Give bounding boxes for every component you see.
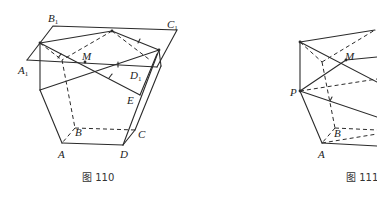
hidden-edge [322, 134, 377, 143]
label-d1: D1 [129, 69, 142, 83]
figure-110: B1 C1 A1 M D1 E A B C D 图 110 [17, 12, 178, 183]
label-a: A [317, 148, 325, 160]
caption-figure-111: 图 111 [346, 172, 377, 183]
figure-111: M P A B 图 111 [289, 30, 377, 183]
plane-edge-a1-d1 [27, 60, 157, 67]
edge [112, 31, 159, 50]
label-c: C [138, 128, 146, 140]
label-m: M [81, 50, 92, 62]
edge [40, 90, 62, 143]
caption-figure-110: 图 110 [82, 172, 114, 183]
vertex-dot [299, 41, 302, 44]
tick-mark [109, 74, 112, 78]
edge [40, 50, 159, 90]
vertex-dot [158, 49, 161, 52]
geometry-figures: B1 C1 A1 M D1 E A B C D 图 110 M P A [0, 0, 377, 199]
edge [300, 91, 377, 117]
label-a1: A1 [17, 64, 29, 78]
edge [300, 91, 322, 143]
label-p: P [289, 86, 297, 98]
edge [300, 30, 375, 42]
tick-mark [58, 54, 61, 58]
edge [140, 54, 157, 95]
label-e: E [126, 94, 134, 106]
edge [300, 42, 377, 82]
vertex-dot [39, 42, 42, 45]
tick-mark [330, 97, 332, 101]
label-c1: C1 [167, 18, 178, 32]
label-d: D [119, 148, 128, 160]
label-b: B [75, 126, 82, 138]
edge [62, 143, 123, 145]
vertex-dot [111, 30, 114, 33]
label-b1: B1 [48, 12, 59, 26]
label-b: B [334, 127, 341, 139]
hidden-edge [112, 31, 150, 60]
label-a: A [57, 148, 65, 160]
hidden-edge [62, 60, 75, 128]
hidden-edge [335, 128, 377, 130]
label-m: M [344, 50, 355, 62]
hidden-edge [62, 128, 75, 143]
point-p [299, 90, 302, 93]
edge [40, 31, 112, 43]
edge [123, 130, 135, 145]
edge [322, 143, 377, 146]
hidden-edge [300, 79, 377, 91]
hidden-edge [75, 128, 135, 130]
